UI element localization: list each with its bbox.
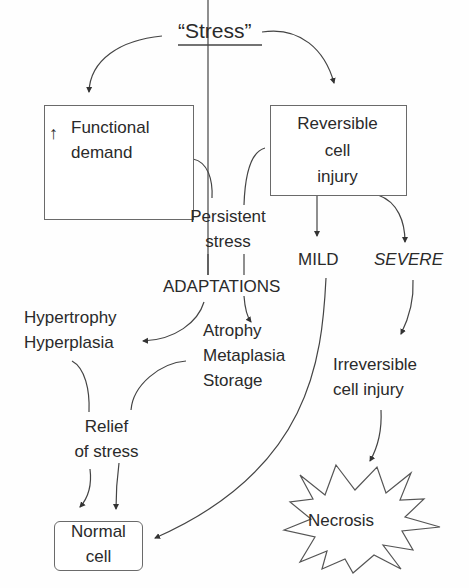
line-functional-to-persistent	[193, 159, 212, 198]
relief-label: Relief	[64, 414, 149, 440]
arrow-mild-to-normal	[155, 278, 326, 538]
line-atrophy-to-relief	[131, 361, 186, 410]
stress-label: stress	[176, 229, 280, 255]
normal-cell-label: cell	[54, 544, 143, 570]
cell-label: cell	[270, 138, 405, 164]
up-arrow-icon: ↑	[49, 120, 58, 146]
line-reversible-to-persistent	[244, 148, 265, 205]
functional-label: Functional	[71, 115, 149, 141]
stress-title: “Stress”	[178, 18, 252, 44]
mild-label: MILD	[298, 247, 339, 273]
arrow-irreversible-to-necrosis	[370, 410, 381, 461]
line-hyper-to-relief	[72, 361, 89, 412]
atrophy-label: Atrophy	[203, 318, 262, 344]
severe-label: SEVERE	[374, 247, 443, 273]
arrow-stress-to-reversible	[262, 31, 334, 83]
arrow-adapt-to-hyper	[143, 302, 204, 341]
demand-label: demand	[71, 140, 132, 166]
irreversible-label: Irreversible	[333, 352, 417, 378]
arrow-reversible-to-severe	[378, 195, 405, 242]
arrow-severe-to-irreversible	[401, 280, 413, 334]
arrow-relief-to-normal-1	[80, 469, 91, 507]
diagram-canvas: “Stress” ↑ Functional demand Reversible …	[0, 0, 469, 588]
arrow-relief-to-normal-2	[116, 463, 119, 509]
hyperplasia-label: Hyperplasia	[24, 330, 114, 356]
metaplasia-label: Metaplasia	[203, 343, 285, 369]
reversible-label: Reversible	[270, 111, 405, 137]
necrosis-label: Necrosis	[308, 508, 374, 534]
hypertrophy-label: Hypertrophy	[24, 305, 117, 331]
injury-label: injury	[270, 164, 405, 190]
cell-injury-label: cell injury	[333, 377, 404, 403]
adaptations-label: ADAPTATIONS	[163, 274, 280, 300]
arrow-stress-to-functional	[89, 36, 162, 92]
normal-label: Normal	[54, 519, 143, 545]
persistent-label: Persistent	[176, 204, 280, 230]
storage-label: Storage	[203, 368, 263, 394]
of-stress-label: of stress	[64, 439, 149, 465]
